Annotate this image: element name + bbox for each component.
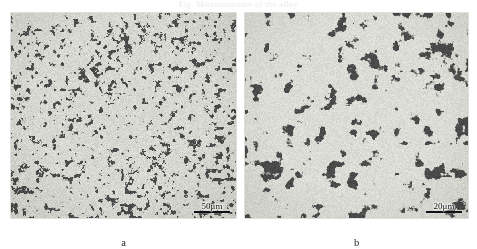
- figure-panel-a: 50μm a: [11, 13, 236, 218]
- micrograph-image-a: 50μm: [11, 13, 236, 218]
- scale-bar-b: 20μm: [426, 201, 462, 213]
- micrograph-canvas-b: [245, 13, 468, 218]
- panel-caption-b: b: [245, 237, 468, 249]
- scale-bar-rule-a: [194, 211, 230, 213]
- micrograph-canvas-a: [11, 13, 236, 218]
- figure-panel-b: 20μm b: [245, 13, 468, 218]
- panel-caption-a: a: [11, 237, 236, 249]
- scale-bar-label-b: 20μm: [426, 201, 462, 211]
- scale-bar-a: 50μm: [194, 201, 230, 213]
- micrograph-image-b: 20μm: [245, 13, 468, 218]
- scale-bar-rule-b: [426, 211, 462, 213]
- scale-bar-label-a: 50μm: [194, 201, 230, 211]
